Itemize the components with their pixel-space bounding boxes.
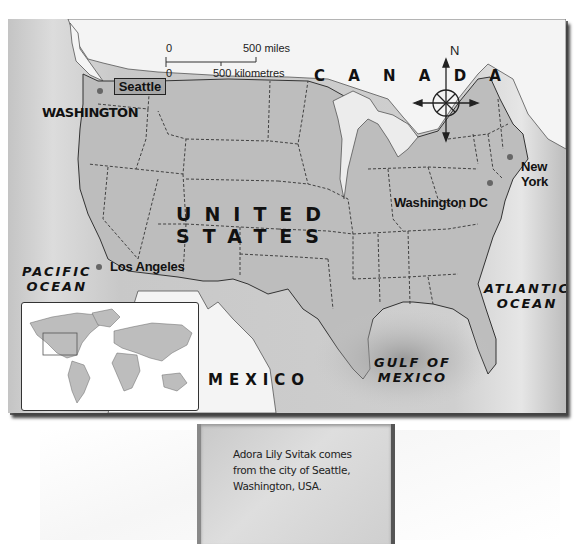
scale-miles-zero: 0 (166, 42, 172, 54)
gulf-label-line2: MEXICO (374, 370, 451, 385)
new-york-marker[interactable] (507, 154, 513, 160)
atlantic-label-line2: OCEAN (484, 296, 566, 311)
pacific-ocean-label: PACIFIC OCEAN (22, 264, 92, 294)
us-label-line1: UNITED (176, 203, 334, 225)
caption-line2: from the city of Seattle, (233, 462, 373, 478)
caption-line1: Adora Lily Svitak comes (233, 446, 373, 462)
caption-text: Adora Lily Svitak comes from the city of… (233, 446, 373, 494)
mexico-label: MEXICO (208, 371, 310, 389)
washington-dc-marker[interactable] (487, 180, 493, 186)
united-states-label: UNITED STATES (176, 203, 334, 247)
new-york-label-line1: New (521, 159, 548, 174)
world-map-icon (22, 303, 198, 410)
gulf-of-mexico-label: GULF OF MEXICO (374, 355, 451, 385)
atlantic-label-line1: ATLANTIC (484, 281, 566, 296)
pacific-label-line2: OCEAN (22, 279, 92, 294)
seattle-label[interactable]: Seattle (114, 78, 166, 95)
scale-km-zero: 0 (166, 67, 172, 79)
new-york-label[interactable]: New York (521, 159, 548, 189)
map-frame: N 0 500 miles 0 500 kilometres Seattle W… (8, 19, 566, 413)
seattle-marker[interactable] (97, 88, 103, 94)
los-angeles-marker[interactable] (96, 264, 102, 270)
scale-km-label: 500 kilometres (213, 67, 285, 79)
canada-label: C A N A D A (314, 67, 510, 85)
world-map-inset[interactable] (21, 302, 199, 411)
us-label-line2: STATES (176, 225, 334, 247)
compass-north-label: N (450, 43, 459, 58)
washington-state-label: WASHINGTON (42, 105, 138, 120)
pacific-label-line1: PACIFIC (22, 264, 92, 279)
gulf-label-line1: GULF OF (374, 355, 451, 370)
atlantic-ocean-label: ATLANTIC OCEAN (484, 281, 566, 311)
scale-miles-label: 500 miles (243, 42, 290, 54)
los-angeles-label[interactable]: Los Angeles (110, 259, 185, 274)
caption-line3: Washington, USA. (233, 478, 373, 494)
washington-dc-label[interactable]: Washington DC (394, 195, 488, 210)
caption-box: Adora Lily Svitak comes from the city of… (197, 424, 395, 544)
new-york-label-line2: York (521, 174, 548, 189)
